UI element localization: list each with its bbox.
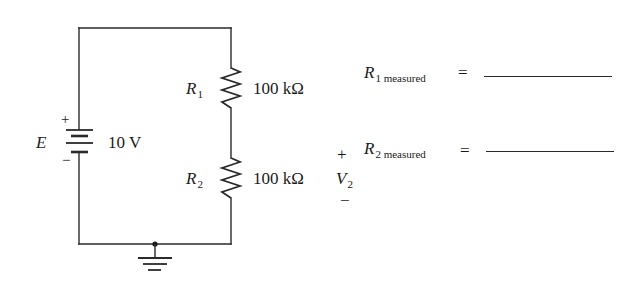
- battery-plus-sign: +: [61, 112, 69, 127]
- r2-measured-equals: =: [460, 142, 470, 159]
- r1-measured-equals: =: [458, 64, 468, 81]
- resistor-r2-value: 100 kΩ: [253, 170, 304, 187]
- circuit-schematic: [0, 0, 644, 281]
- resistor-r1-name: R1: [186, 80, 203, 97]
- r1-measured-label: R1 measured: [364, 64, 426, 81]
- v2-plus-sign: +: [337, 146, 347, 163]
- r2-measured-label: R2 measured: [364, 140, 426, 157]
- v2-minus-sign: −: [340, 192, 350, 209]
- source-name-label: E: [36, 134, 46, 151]
- r1-measured-blank[interactable]: [484, 76, 612, 77]
- circuit-diagram: + − E 10 V R1 100 kΩ R2 100 kΩ + V2 − R1…: [0, 0, 644, 281]
- resistor-r2-icon: [222, 158, 240, 198]
- resistor-r1-value: 100 kΩ: [253, 80, 304, 97]
- ground-icon: [138, 241, 172, 270]
- r2-measured-blank[interactable]: [486, 151, 614, 152]
- resistor-r1-icon: [222, 68, 240, 108]
- v2-label: V2: [336, 170, 353, 187]
- battery-icon: [66, 130, 93, 152]
- battery-minus-sign: −: [62, 153, 70, 168]
- resistor-r2-name: R2: [186, 170, 203, 187]
- source-value-label: 10 V: [108, 134, 141, 151]
